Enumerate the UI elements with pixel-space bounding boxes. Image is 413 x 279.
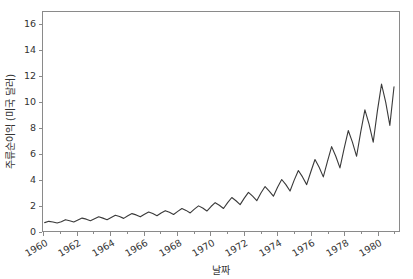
y-tick-label: 16 xyxy=(24,17,36,30)
data-line-series xyxy=(43,12,399,231)
x-tick-mark xyxy=(177,232,178,236)
y-tick-label: 8 xyxy=(30,121,36,134)
x-tick-label: 1968 xyxy=(153,237,183,261)
y-tick-label: 10 xyxy=(24,95,36,108)
x-minor-tick-mark xyxy=(261,232,262,234)
y-tick-label: 12 xyxy=(24,69,36,82)
x-tick-mark xyxy=(77,232,78,236)
x-tick-mark xyxy=(344,232,345,236)
chart-figure: 0246810121416 19601962196419661968197019… xyxy=(0,0,413,279)
x-minor-tick-mark xyxy=(361,232,362,234)
x-tick-mark xyxy=(244,232,245,236)
x-tick-mark xyxy=(378,232,379,236)
x-minor-tick-mark xyxy=(60,232,61,234)
x-tick-label: 1964 xyxy=(86,237,116,261)
x-minor-tick-mark xyxy=(294,232,295,234)
y-tick-label: 2 xyxy=(30,199,36,212)
y-tick-label: 6 xyxy=(30,147,36,160)
x-tick-label: 1974 xyxy=(254,237,284,261)
x-tick-mark xyxy=(43,232,44,236)
x-tick-mark xyxy=(311,232,312,236)
x-minor-tick-mark xyxy=(328,232,329,234)
x-tick-mark xyxy=(210,232,211,236)
y-axis-label: 주류순이익 (미국 달러) xyxy=(2,11,16,232)
x-tick-label: 1966 xyxy=(120,237,150,261)
x-minor-tick-mark xyxy=(194,232,195,234)
x-tick-label: 1980 xyxy=(354,237,384,261)
x-tick-label: 1976 xyxy=(287,237,317,261)
x-axis-label: 날짜 xyxy=(42,262,400,277)
x-tick-label: 1960 xyxy=(19,237,49,261)
y-tick-label: 0 xyxy=(30,225,36,238)
x-minor-tick-mark xyxy=(227,232,228,234)
plot-area xyxy=(42,11,400,232)
x-tick-label: 1978 xyxy=(321,237,351,261)
x-minor-tick-mark xyxy=(93,232,94,234)
x-tick-mark xyxy=(144,232,145,236)
y-tick-label: 4 xyxy=(30,173,36,186)
x-minor-tick-mark xyxy=(160,232,161,234)
x-tick-mark xyxy=(277,232,278,236)
x-tick-label: 1962 xyxy=(53,237,83,261)
x-tick-mark xyxy=(110,232,111,236)
x-minor-tick-mark xyxy=(127,232,128,234)
x-tick-label: 1972 xyxy=(220,237,250,261)
x-tick-label: 1970 xyxy=(187,237,217,261)
y-tick-label: 14 xyxy=(24,43,36,56)
x-minor-tick-mark xyxy=(394,232,395,234)
